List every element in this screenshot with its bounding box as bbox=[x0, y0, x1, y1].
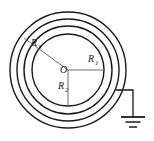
radius-label-r2-letter: R bbox=[57, 80, 64, 91]
center-point-label: O bbox=[60, 64, 67, 75]
radius-label-r2: R 2 bbox=[57, 80, 69, 93]
radius-label-r1-subscript: 1 bbox=[95, 59, 98, 66]
radius-label-r1-letter: R bbox=[87, 53, 94, 64]
ground-wire bbox=[116, 90, 133, 117]
radius-label-r3: R 3 bbox=[30, 37, 42, 50]
radius-label-r3-letter: R bbox=[30, 37, 37, 48]
figure-container: O R 1 R 2 R 3 bbox=[0, 0, 154, 141]
radius-label-r1: R 1 bbox=[87, 53, 98, 66]
concentric-circles-ground-diagram: O R 1 R 2 R 3 bbox=[0, 0, 154, 141]
